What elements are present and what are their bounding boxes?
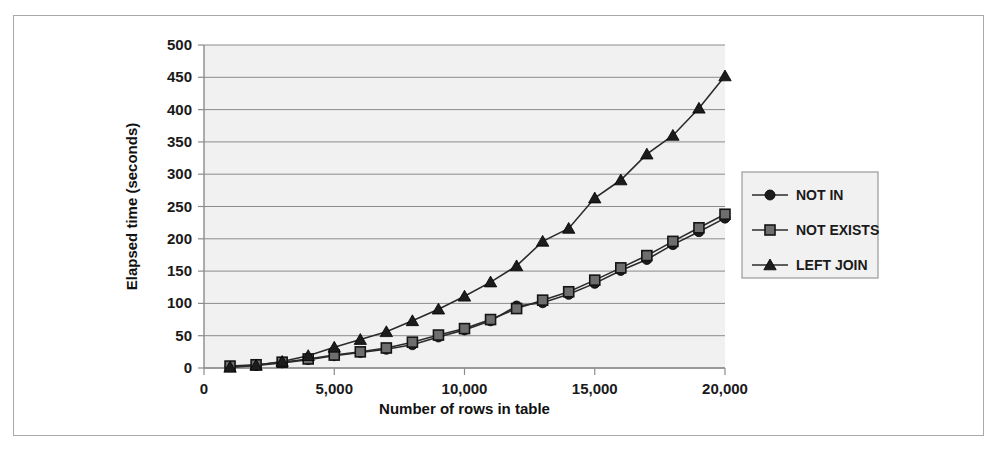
- data-point-not-exists: [590, 275, 600, 285]
- y-tick-label: 350: [167, 133, 192, 150]
- data-point-not-exists: [433, 330, 443, 340]
- data-point-not-exists: [538, 295, 548, 305]
- x-tick-label: 10,000: [442, 380, 488, 397]
- y-tick-label: 0: [184, 359, 192, 376]
- y-tick-label: 300: [167, 165, 192, 182]
- data-point-not-exists: [355, 347, 365, 357]
- legend-label-not-in: NOT IN: [796, 187, 843, 203]
- x-tick-label: 15,000: [572, 380, 618, 397]
- data-point-not-exists: [720, 209, 730, 219]
- data-point-not-exists: [564, 287, 574, 297]
- data-point-not-exists: [381, 343, 391, 353]
- legend-marker-circle-icon: [765, 190, 775, 200]
- x-axis-title: Number of rows in table: [379, 400, 550, 417]
- x-tick-label: 20,000: [702, 380, 748, 397]
- figure-root: 05010015020025030035040045050005,00010,0…: [0, 0, 995, 451]
- y-tick-label: 450: [167, 68, 192, 85]
- data-point-not-exists: [642, 251, 652, 261]
- x-tick-label: 5,000: [315, 380, 353, 397]
- data-point-not-exists: [486, 315, 496, 325]
- legend-label-not-exists: NOT EXISTS: [796, 222, 879, 238]
- data-point-not-exists: [460, 324, 470, 334]
- data-point-not-exists: [694, 223, 704, 233]
- y-axis-title: Elapsed time (seconds): [123, 123, 140, 291]
- data-point-not-exists: [616, 263, 626, 273]
- y-tick-label: 250: [167, 198, 192, 215]
- data-point-not-exists: [668, 236, 678, 246]
- data-point-not-exists: [512, 304, 522, 314]
- y-tick-label: 50: [175, 327, 192, 344]
- y-tick-label: 200: [167, 230, 192, 247]
- legend-marker-square-icon: [765, 225, 775, 235]
- performance-line-chart: 05010015020025030035040045050005,00010,0…: [0, 0, 995, 451]
- y-tick-label: 500: [167, 36, 192, 53]
- legend-label-left-join: LEFT JOIN: [796, 257, 868, 273]
- y-tick-label: 100: [167, 294, 192, 311]
- data-point-not-exists: [407, 337, 417, 347]
- y-tick-label: 150: [167, 262, 192, 279]
- x-tick-label: 0: [200, 380, 208, 397]
- y-tick-label: 400: [167, 101, 192, 118]
